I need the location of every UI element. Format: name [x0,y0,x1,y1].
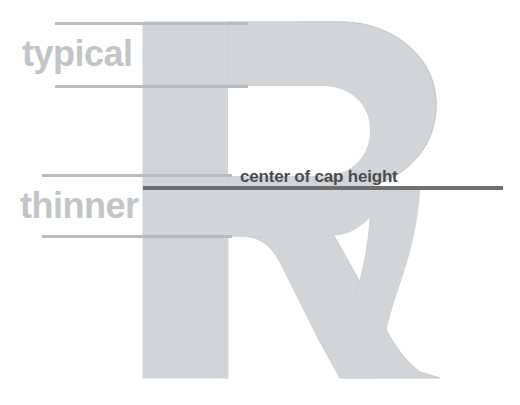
measure-line-bottom-lower [42,235,232,238]
measure-line-top-upper [55,22,248,25]
measure-line-bottom-upper [42,174,232,177]
label-thinner: thinner [20,188,139,224]
typography-diagram: typical thinner center of cap height [0,0,520,405]
letter-r-stem-final [143,22,228,378]
label-center-of-cap-height: center of cap height [240,168,398,185]
label-typical: typical [22,36,133,72]
measure-line-top-lower [55,85,248,88]
letter-r-counter-final [228,86,370,176]
cap-height-center-axis [143,186,503,190]
